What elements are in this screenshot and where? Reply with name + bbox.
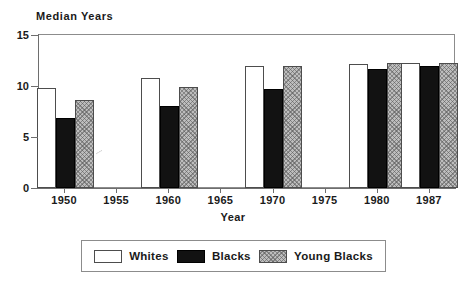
bar-whites-1987 (401, 63, 420, 188)
bar-group (401, 35, 458, 188)
legend-label-young-blacks: Young Blacks (294, 250, 373, 262)
y-tick-mark (31, 137, 38, 138)
y-axis-ticks: 051015 (0, 0, 29, 285)
legend-swatch-blacks (177, 250, 205, 263)
y-tick-mark (31, 35, 38, 36)
bar-whites-1960 (141, 78, 160, 188)
y-tick-label: 0 (3, 182, 29, 194)
y-tick-label: 10 (3, 80, 29, 92)
bar-whites-1970 (245, 66, 264, 188)
bar-young-blacks-1987 (439, 63, 458, 188)
chart-legend: Whites Blacks Young Blacks (81, 240, 386, 272)
bar-blacks-1950 (56, 118, 75, 188)
bar-whites-1980 (349, 64, 368, 188)
x-tick-label: 1975 (299, 194, 351, 206)
x-axis-line (38, 188, 456, 189)
bar-group (245, 35, 302, 188)
x-tick-label: 1960 (142, 194, 194, 206)
bar-young-blacks-1970 (283, 66, 302, 188)
bar-whites-1950 (37, 88, 56, 188)
x-tick-label: 1987 (403, 194, 455, 206)
bar-series-layer (39, 35, 455, 188)
legend-item-blacks: Blacks (177, 250, 251, 263)
x-tick-mark (220, 188, 221, 193)
legend-item-whites: Whites (94, 250, 169, 263)
x-tick-mark (168, 188, 169, 193)
y-tick-mark (31, 188, 38, 189)
bar-blacks-1987 (420, 66, 439, 188)
x-tick-label: 1950 (38, 194, 90, 206)
y-tick-label: 5 (3, 131, 29, 143)
y-axis-title: Median Years (36, 10, 113, 22)
legend-swatch-young-blacks (259, 250, 287, 263)
bar-group (37, 35, 94, 188)
legend-item-young-blacks: Young Blacks (259, 250, 373, 263)
y-tick-label: 15 (3, 29, 29, 41)
x-tick-label: 1965 (194, 194, 246, 206)
bar-young-blacks-1950 (75, 100, 94, 188)
bar-blacks-1960 (160, 106, 179, 188)
legend-label-whites: Whites (129, 250, 169, 262)
x-tick-mark (64, 188, 65, 193)
x-tick-mark (273, 188, 274, 193)
x-axis-title: Year (0, 211, 466, 223)
x-tick-label: 1955 (90, 194, 142, 206)
x-tick-mark (377, 188, 378, 193)
scan-artifact (96, 148, 102, 157)
x-tick-mark (429, 188, 430, 193)
bar-young-blacks-1960 (179, 87, 198, 188)
bar-group (141, 35, 198, 188)
legend-label-blacks: Blacks (212, 250, 251, 262)
x-tick-label: 1980 (351, 194, 403, 206)
bar-group (349, 35, 406, 188)
y-tick-mark (31, 86, 38, 87)
x-tick-mark (116, 188, 117, 193)
legend-swatch-whites (94, 250, 122, 263)
x-tick-label: 1970 (247, 194, 299, 206)
x-tick-mark (325, 188, 326, 193)
bar-blacks-1970 (264, 89, 283, 188)
bar-blacks-1980 (368, 69, 387, 188)
